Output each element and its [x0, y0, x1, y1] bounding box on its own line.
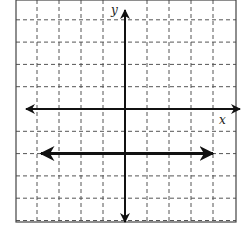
y-axis-label: y: [110, 3, 118, 17]
x-axis-label: x: [219, 113, 226, 127]
coordinate-graph: y x: [0, 0, 244, 227]
